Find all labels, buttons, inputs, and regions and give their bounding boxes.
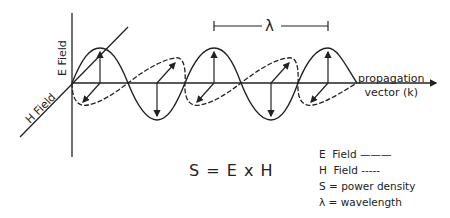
propagation-label-line2: vector (k) [358,86,425,100]
legend-item-e-field: E Field ——— [319,146,415,162]
h-field-label: H Field [23,91,58,126]
h-vector-arrow [197,83,214,102]
poynting-formula: S = E x H [189,161,274,180]
h-vector-arrow [311,83,328,102]
h-vector-arrow [271,63,289,83]
propagation-label-line1: propagation [358,72,425,86]
wavelength-marker: λ [214,17,328,35]
e-field-label: E Field [56,40,69,76]
legend-item-h-field: H Field ----- [319,162,415,178]
h-vector-arrow [157,63,175,83]
propagation-label: propagation vector (k) [358,72,425,100]
lambda-symbol: λ [265,17,274,35]
h-vector-arrow [83,83,100,102]
legend-item-wavelength: λ = wavelength [319,194,415,210]
legend: E Field ——— H Field ----- S = power dens… [319,146,415,210]
legend-item-power-density: S = power density [319,178,415,194]
